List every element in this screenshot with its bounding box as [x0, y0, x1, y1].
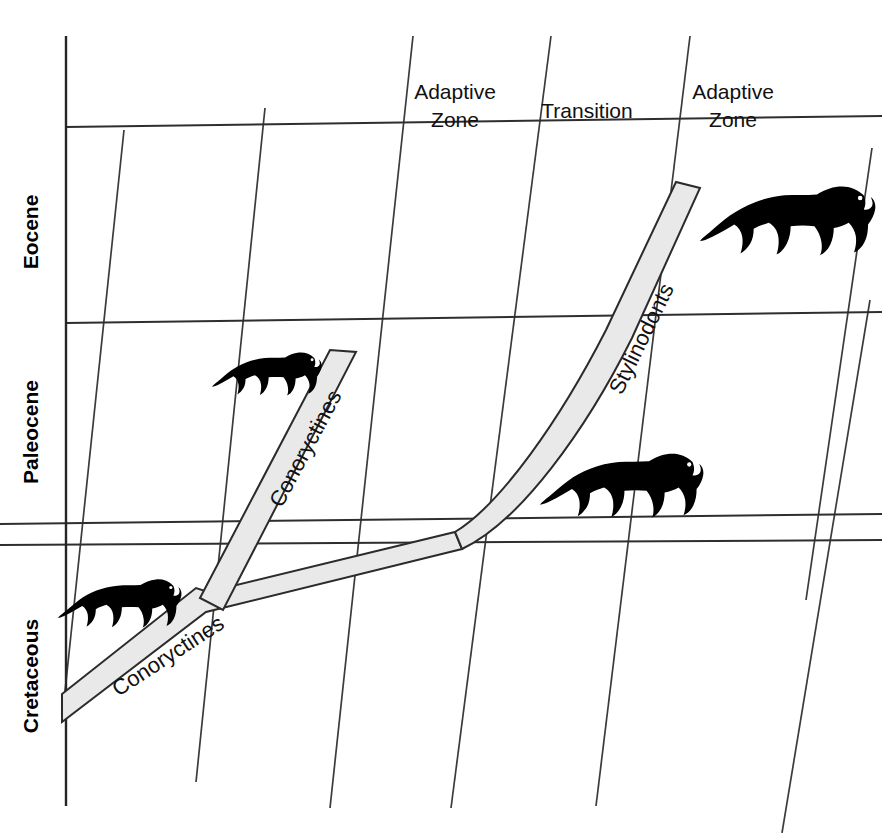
- transition-zone-label: Transition: [541, 99, 632, 122]
- adaptive-zone-left-label-line2: Zone: [431, 108, 479, 131]
- epoch-boundary-eocene-paleocene: [66, 312, 882, 323]
- epoch-boundary-paleocene-cretaceous-upper: [0, 514, 882, 524]
- zone-boundary-diagonals: [330, 36, 690, 808]
- epoch-boundary-lines: [0, 116, 882, 545]
- diagram-canvas: Adaptive Zone Transition Adaptive Zone E…: [0, 0, 882, 833]
- diagonal-gridline-5: [196, 108, 265, 782]
- silhouette-stylinodont-eocene: [700, 186, 875, 255]
- epoch-label-eocene: Eocene: [19, 195, 42, 270]
- diagonal-gridline-3: [596, 36, 690, 806]
- diagonal-gridline-4: [62, 130, 124, 720]
- taeniodont-evolution-diagram: Adaptive Zone Transition Adaptive Zone E…: [0, 0, 882, 833]
- epoch-label-cretaceous: Cretaceous: [19, 619, 42, 733]
- diagonal-gridline-2: [451, 36, 551, 808]
- diagonal-gridline-1: [330, 36, 413, 808]
- silhouette-taeniodont-paleocene-small: [212, 352, 322, 395]
- diagonal-gridline-6: [782, 300, 870, 833]
- silhouette-stylinodont-paleocene: [540, 454, 703, 518]
- adaptive-zone-left-label-line1: Adaptive: [414, 80, 496, 103]
- adaptive-zone-right-label-line1: Adaptive: [692, 80, 774, 103]
- epoch-labels: Eocene Paleocene Cretaceous: [19, 195, 42, 734]
- zone-labels: Adaptive Zone Transition Adaptive Zone: [414, 80, 774, 131]
- adaptive-zone-right-label-line2: Zone: [709, 108, 757, 131]
- epoch-label-paleocene: Paleocene: [19, 380, 42, 484]
